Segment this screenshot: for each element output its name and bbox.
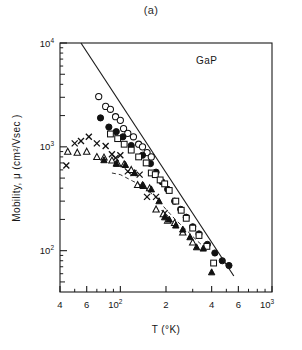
x-axis-tick-labels: 46102246103 — [57, 298, 274, 310]
data-point — [143, 160, 149, 166]
x-tick-label: 102 — [108, 298, 123, 310]
data-point — [178, 207, 184, 213]
data-point — [117, 117, 123, 123]
x-tick-label: 6 — [236, 299, 241, 310]
data-point — [162, 181, 168, 187]
data-point — [107, 106, 113, 112]
data-point — [211, 260, 217, 266]
data-point — [183, 215, 189, 221]
data-point — [108, 131, 114, 137]
x-tick-label: 103 — [260, 298, 275, 310]
data-point — [166, 188, 172, 194]
data-point — [190, 225, 196, 231]
data-point — [148, 154, 154, 160]
plot-frame — [60, 43, 272, 292]
data-point — [97, 115, 103, 121]
data-point — [196, 233, 202, 239]
x-axis-title: T (°K) — [152, 324, 180, 335]
data-point — [106, 124, 112, 130]
y-tick-label: 103 — [40, 140, 55, 152]
data-point — [136, 154, 142, 160]
mobility-vs-temperature-chart: 46102246103 102103104 T (°K) Mobility, μ… — [0, 0, 302, 350]
data-point — [139, 144, 145, 150]
y-axis-tick-labels: 102103104 — [40, 37, 55, 257]
figure-panel: (a) 46102246103 102103104 T (°K) Mobilit… — [0, 0, 302, 350]
data-point — [121, 141, 127, 147]
data-point — [130, 134, 136, 140]
data-point — [115, 136, 121, 142]
x-tick-label: 6 — [84, 299, 89, 310]
x-tick-label: 4 — [57, 299, 62, 310]
y-tick-label: 104 — [40, 37, 55, 49]
y-axis-title: Mobility, μ (cm²/Vsec ) — [11, 114, 22, 222]
data-point — [113, 129, 119, 135]
x-tick-label: 2 — [163, 299, 168, 310]
material-label: GaP — [196, 55, 217, 66]
data-point — [128, 147, 134, 153]
data-point — [173, 198, 179, 204]
y-tick-label: 102 — [40, 244, 55, 256]
x-tick-label: 4 — [209, 299, 214, 310]
data-point — [96, 93, 102, 99]
